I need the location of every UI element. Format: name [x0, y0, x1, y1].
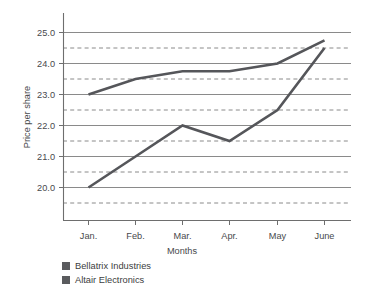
- axis-lines: [63, 13, 351, 221]
- chart-figure: 25.0 24.0 23.0 22.0 21.0 20.0 Jan. Feb. …: [0, 0, 366, 298]
- ytick-label-25-0: 25.0: [37, 28, 55, 38]
- xtick-label-feb: Feb.: [126, 231, 144, 241]
- legend-swatch-icon-altair-electronics: [62, 276, 70, 284]
- legend-item-altair-electronics: Altair Electronics: [62, 275, 144, 285]
- xtick-label-apr: Apr.: [221, 231, 237, 241]
- x-tick-labels: Jan. Feb. Mar. Apr. May June: [80, 231, 335, 241]
- series-line-altair-electronics: [89, 48, 325, 188]
- legend-label-altair-electronics: Altair Electronics: [75, 275, 144, 285]
- y-axis-title: Price per share: [22, 86, 32, 148]
- y-tick-labels: 25.0 24.0 23.0 22.0 21.0 20.0: [37, 28, 55, 193]
- xtick-label-june: June: [315, 231, 335, 241]
- x-axis-title: Months: [167, 246, 198, 256]
- ytick-label-22-0: 22.0: [37, 121, 55, 131]
- y-tick-marks: [59, 33, 63, 188]
- legend-item-bellatrix-industries: Bellatrix Industries: [62, 261, 151, 271]
- line-chart-plot: 25.0 24.0 23.0 22.0 21.0 20.0 Jan. Feb. …: [0, 0, 366, 298]
- ytick-label-23-0: 23.0: [37, 90, 55, 100]
- legend-swatch-icon-bellatrix-industries: [62, 262, 70, 270]
- legend-label-bellatrix-industries: Bellatrix Industries: [75, 261, 151, 271]
- ytick-label-24-0: 24.0: [37, 59, 55, 69]
- xtick-label-mar: Mar.: [174, 231, 192, 241]
- xtick-label-may: May: [269, 231, 287, 241]
- xtick-label-jan: Jan.: [80, 231, 97, 241]
- ytick-label-21-0: 21.0: [37, 152, 55, 162]
- ytick-label-20-0: 20.0: [37, 183, 55, 193]
